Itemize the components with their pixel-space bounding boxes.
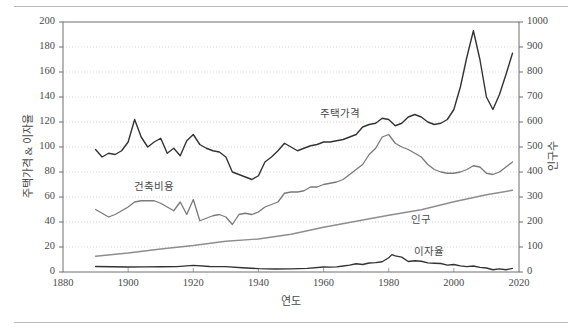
x-axis-tick-label: 1880: [43, 277, 83, 288]
series-annotation-population: 인구: [411, 211, 431, 226]
x-axis-tick-label: 1920: [173, 277, 213, 288]
series-annotation-construction_cost: 건축비용: [134, 178, 174, 193]
y-axis-left-tick-label: 160: [21, 65, 55, 76]
y-axis-left-tick-label: 80: [21, 165, 55, 176]
x-axis-tick-label: 1960: [304, 277, 344, 288]
y-axis-right-tick-label: 1000: [527, 15, 567, 26]
x-axis-tick-label: 2000: [434, 277, 474, 288]
y-axis-right-tick-label: 800: [527, 65, 567, 76]
y-axis-right-tick-label: 100: [527, 240, 567, 251]
x-axis-tick-label: 1980: [369, 277, 409, 288]
x-axis-tick-label: 2020: [499, 277, 539, 288]
y-axis-right-tick-label: 0: [527, 265, 567, 276]
y-axis-left-tick-label: 120: [21, 115, 55, 126]
y-axis-left-tick-label: 100: [21, 140, 55, 151]
multi-series-line-chart: 주택가격 & 이자율 인구수 연도 0204060801001201401601…: [0, 0, 582, 333]
y-axis-left-tick-label: 60: [21, 190, 55, 201]
y-axis-left-tick-label: 200: [21, 15, 55, 26]
y-axis-right-tick-label: 300: [527, 190, 567, 201]
series-line-housing_price: [96, 31, 513, 180]
series-line-interest_rate: [96, 255, 513, 270]
series-line-population: [96, 190, 513, 256]
x-axis-tick-label: 1940: [238, 277, 278, 288]
chart-canvas: [0, 0, 582, 333]
series-annotation-interest_rate: 이자율: [414, 243, 444, 258]
y-axis-right-tick-label: 400: [527, 165, 567, 176]
y-axis-right-tick-label: 500: [527, 140, 567, 151]
y-axis-left-tick-label: 0: [21, 265, 55, 276]
y-axis-right-tick-label: 900: [527, 40, 567, 51]
x-axis-title: 연도: [0, 292, 582, 308]
x-axis-tick-label: 1900: [108, 277, 148, 288]
y-axis-left-tick-label: 180: [21, 40, 55, 51]
y-axis-right-tick-label: 600: [527, 115, 567, 126]
series-annotation-housing_price: 주택가격: [320, 105, 360, 120]
y-axis-right-tick-label: 200: [527, 215, 567, 226]
y-axis-right-title: 인구수: [544, 116, 560, 196]
y-axis-left-tick-label: 40: [21, 215, 55, 226]
y-axis-right-tick-label: 700: [527, 90, 567, 101]
y-axis-left-tick-label: 20: [21, 240, 55, 251]
y-axis-left-tick-label: 140: [21, 90, 55, 101]
